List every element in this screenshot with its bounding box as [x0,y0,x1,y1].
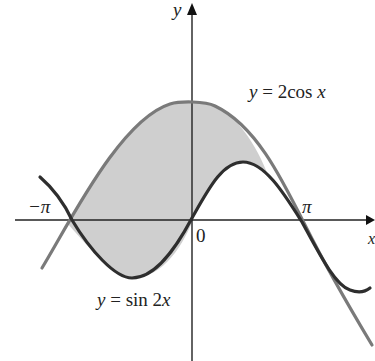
shaded-area [68,103,270,278]
neg-pi-tick-label: −π [28,196,51,217]
x-axis-arrow-icon [366,215,375,225]
pi-tick-label: π [302,196,312,217]
x-axis-label: x [367,230,375,247]
y-axis-label: y [171,0,182,20]
cos-label: y = 2cos x [247,81,326,102]
origin-label: 0 [196,225,206,246]
sin-label: y = sin 2x [95,289,171,310]
y-axis-arrow-icon [187,3,197,15]
chart: y x y = 2cos x y = sin 2x −π π 0 [0,0,375,361]
